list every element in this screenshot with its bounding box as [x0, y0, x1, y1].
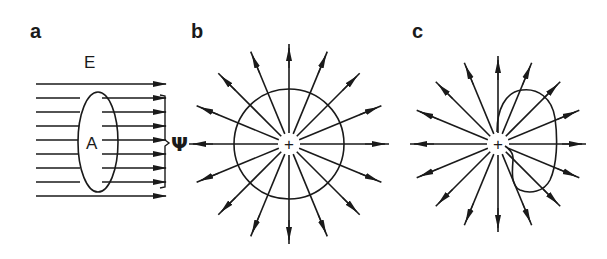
- positive-charge: +: [493, 135, 503, 154]
- arrowhead-icon: [439, 189, 453, 203]
- arrowhead-icon: [466, 203, 474, 221]
- surface-label-a: A: [86, 134, 98, 153]
- arrowhead-icon: [466, 66, 474, 84]
- arrowhead-icon: [221, 198, 235, 212]
- panel-b: b +: [189, 20, 389, 244]
- flux-diagram: a E A Ψ b + c +: [0, 0, 607, 259]
- positive-charge: +: [284, 135, 294, 154]
- arrowhead-icon: [557, 112, 575, 120]
- arrowhead-icon: [439, 85, 453, 99]
- arrowhead-icon: [557, 168, 575, 176]
- panel-c: c +: [410, 20, 586, 232]
- arrowhead-icon: [359, 173, 377, 181]
- panel-label-b: b: [191, 20, 203, 42]
- arrowhead-icon: [252, 55, 260, 73]
- arrowhead-icon: [522, 66, 530, 84]
- panel-label-a: a: [30, 20, 42, 42]
- arrowhead-icon: [221, 76, 235, 90]
- closed-surface-loop: [497, 90, 557, 192]
- field-label-e: E: [84, 53, 95, 72]
- arrowhead-icon: [522, 203, 530, 221]
- arrowhead-icon: [318, 214, 326, 232]
- arrowhead-icon: [318, 55, 326, 73]
- arrowhead-icon: [343, 76, 357, 90]
- arrowhead-icon: [343, 198, 357, 212]
- arrowhead-icon: [543, 189, 557, 203]
- arrowhead-icon: [252, 214, 260, 232]
- arrowhead-icon: [200, 173, 218, 181]
- panel-a: a E A Ψ: [30, 20, 188, 196]
- panel-label-c: c: [412, 20, 423, 42]
- arrowhead-icon: [420, 168, 438, 176]
- surface-ellipse: [78, 92, 118, 192]
- flux-label-psi: Ψ: [171, 132, 188, 156]
- arrowhead-icon: [420, 112, 438, 120]
- flux-brace-icon: [160, 95, 169, 188]
- arrowhead-icon: [200, 107, 218, 115]
- arrowhead-icon: [543, 85, 557, 99]
- arrowhead-icon: [359, 107, 377, 115]
